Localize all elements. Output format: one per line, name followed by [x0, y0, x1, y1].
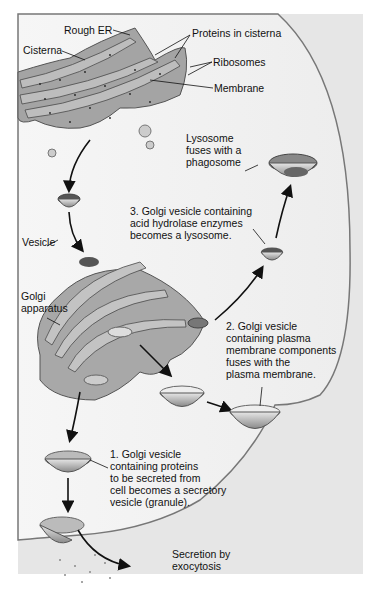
label-membrane: Membrane [214, 82, 264, 94]
label-cisterna: Cisterna [23, 44, 62, 56]
golgi-pathway-diagram: Rough ER Proteins in cisterna Cisterna R… [0, 0, 368, 597]
label-proteins-in-cisterna: Proteins in cisterna [192, 27, 281, 39]
label-step-3: 3. Golgi vesicle containing acid hydrola… [130, 205, 252, 241]
label-lysosome-fuses: Lysosome fuses with a phagosome [186, 132, 241, 168]
label-step-1: 1. Golgi vesicle containing proteins to … [110, 448, 226, 508]
label-step-2: 2. Golgi vesicle containing plasma membr… [226, 320, 336, 380]
label-secretion: Secretion by exocytosis [172, 548, 230, 572]
label-rough-er: Rough ER [64, 24, 112, 36]
label-ribosomes: Ribosomes [213, 56, 266, 68]
label-golgi-apparatus: Golgi apparatus [21, 290, 68, 314]
label-vesicle: Vesicle [22, 236, 55, 248]
